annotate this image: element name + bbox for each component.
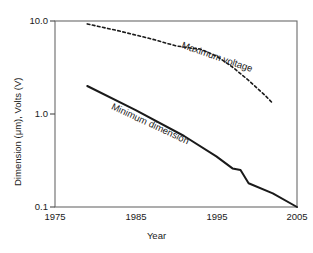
y-axis-ticks bbox=[50, 21, 55, 207]
x-tick-label-1995: 1995 bbox=[195, 212, 239, 222]
plot-frame bbox=[55, 21, 297, 207]
y-tick-label-0-1: 0.1 bbox=[6, 202, 48, 212]
x-axis-title: Year bbox=[0, 231, 313, 241]
chart-figure: 10.0 1.0 0.1 1975 1985 1995 2005 Dimensi… bbox=[0, 0, 313, 253]
x-tick-label-1975: 1975 bbox=[33, 212, 77, 222]
x-tick-label-1985: 1985 bbox=[114, 212, 158, 222]
y-axis-title: Dimension (μm), Volts (V) bbox=[13, 78, 23, 186]
x-tick-label-2005: 2005 bbox=[275, 212, 313, 222]
y-tick-label-10: 10.0 bbox=[6, 16, 48, 26]
